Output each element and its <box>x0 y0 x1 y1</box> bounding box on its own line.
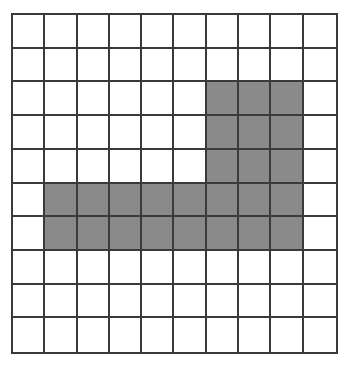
grid-cell <box>110 82 142 116</box>
grid-cell <box>110 285 142 319</box>
grid-cell <box>13 150 45 184</box>
grid-cell <box>304 217 336 251</box>
grid-cell <box>304 251 336 285</box>
grid-cell <box>174 150 206 184</box>
grid-cell <box>110 116 142 150</box>
grid-cell-shaded <box>110 184 142 218</box>
grid-cell <box>142 116 174 150</box>
grid-cell <box>207 49 239 83</box>
grid-cell <box>142 251 174 285</box>
grid-cell <box>304 116 336 150</box>
grid-cell <box>304 15 336 49</box>
grid-cell <box>13 82 45 116</box>
grid-cell <box>271 251 303 285</box>
grid-cell-shaded <box>239 82 271 116</box>
grid-cell <box>239 251 271 285</box>
grid-cell <box>110 49 142 83</box>
grid-cell <box>45 318 77 352</box>
grid-cell <box>239 49 271 83</box>
grid-cell-shaded <box>271 150 303 184</box>
grid-cell <box>78 49 110 83</box>
grid-cell <box>271 318 303 352</box>
grid-cell <box>271 285 303 319</box>
grid-cell-shaded <box>239 150 271 184</box>
grid-cell <box>142 49 174 83</box>
grid-cell <box>110 251 142 285</box>
grid-cell <box>207 251 239 285</box>
grid-cell-shaded <box>271 116 303 150</box>
grid-cell <box>207 15 239 49</box>
grid-cell <box>13 217 45 251</box>
grid-cell <box>174 82 206 116</box>
grid-cell <box>142 318 174 352</box>
grid-cell <box>45 150 77 184</box>
grid-cell <box>142 15 174 49</box>
grid-cell <box>110 150 142 184</box>
grid-cell <box>142 285 174 319</box>
grid-cell <box>78 15 110 49</box>
grid-cell <box>304 184 336 218</box>
grid-cell <box>271 49 303 83</box>
grid-cell-shaded <box>78 184 110 218</box>
grid-cell <box>45 49 77 83</box>
grid-cell-shaded <box>239 217 271 251</box>
grid-cell <box>239 285 271 319</box>
grid-cell <box>13 49 45 83</box>
grid-cell-shaded <box>271 217 303 251</box>
grid-cell <box>174 318 206 352</box>
grid-cell-shaded <box>110 217 142 251</box>
grid-cell <box>78 150 110 184</box>
grid-cell <box>78 82 110 116</box>
grid-cell <box>207 318 239 352</box>
grid-cell <box>13 184 45 218</box>
grid-cell <box>142 82 174 116</box>
grid-cell-shaded <box>239 184 271 218</box>
grid-cell <box>271 15 303 49</box>
grid-cell-shaded <box>45 217 77 251</box>
grid-cell <box>45 285 77 319</box>
grid-cell <box>13 318 45 352</box>
grid-cell <box>207 285 239 319</box>
grid-cell <box>13 251 45 285</box>
grid-cell <box>45 116 77 150</box>
grid-cell <box>45 82 77 116</box>
grid-cell <box>45 251 77 285</box>
grid-cell-shaded <box>174 184 206 218</box>
grid-cell-shaded <box>207 82 239 116</box>
grid-cell-shaded <box>174 217 206 251</box>
grid-cell <box>174 285 206 319</box>
grid-cell <box>45 15 77 49</box>
grid-cell-shaded <box>78 217 110 251</box>
grid-cell <box>304 82 336 116</box>
square-grid <box>11 13 338 354</box>
grid-cell <box>78 251 110 285</box>
grid-cell <box>174 251 206 285</box>
grid-cell <box>304 285 336 319</box>
grid-cell <box>110 15 142 49</box>
grid-cell <box>304 150 336 184</box>
grid-cell-shaded <box>271 184 303 218</box>
grid-cell-shaded <box>271 82 303 116</box>
grid-cell <box>304 318 336 352</box>
grid-cell <box>13 15 45 49</box>
grid-cell <box>78 116 110 150</box>
grid-cell <box>174 15 206 49</box>
grid-cell <box>239 15 271 49</box>
grid-cell <box>239 318 271 352</box>
grid-cell <box>78 285 110 319</box>
grid-cell <box>304 49 336 83</box>
grid-cell <box>142 150 174 184</box>
grid-cell <box>110 318 142 352</box>
grid-cell-shaded <box>207 116 239 150</box>
grid-cell <box>174 116 206 150</box>
grid-cell-shaded <box>142 184 174 218</box>
grid-cell-shaded <box>239 116 271 150</box>
grid-cell-shaded <box>207 184 239 218</box>
grid-cell-shaded <box>142 217 174 251</box>
grid-cell-shaded <box>207 150 239 184</box>
grid-cell-shaded <box>45 184 77 218</box>
grid-cell <box>13 116 45 150</box>
grid-cell <box>174 49 206 83</box>
grid-cell <box>13 285 45 319</box>
grid-cell-shaded <box>207 217 239 251</box>
